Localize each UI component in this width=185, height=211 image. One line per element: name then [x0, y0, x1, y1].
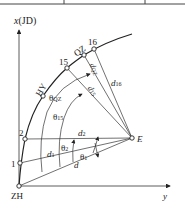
line-d16	[94, 49, 132, 138]
label-point-1: 1	[11, 159, 16, 169]
label-point-e: E	[136, 134, 143, 144]
label-d15: d15	[86, 85, 99, 98]
line-d15	[67, 68, 132, 138]
line-d2	[25, 138, 132, 139]
label-d1: d1	[47, 149, 55, 159]
axes	[19, 30, 170, 186]
label-d16: d16	[111, 78, 122, 88]
y-axis-label: y	[162, 191, 167, 201]
label-dqz: dQZ	[88, 62, 100, 77]
point-1	[18, 161, 22, 165]
curve-layout-diagram: x(JD) ZH y 1 2 HY 15 QZ 16 E d d1 d2 d15…	[0, 0, 185, 211]
point-16	[92, 47, 96, 51]
label-point-15: 15	[59, 57, 69, 67]
label-thetaqz: θQZ	[49, 93, 62, 103]
label-d2: d2	[78, 128, 86, 138]
label-theta2: θ2	[61, 143, 68, 153]
table-border-remnant	[0, 0, 185, 4]
label-theta15: θ15	[53, 112, 63, 122]
point-e	[130, 136, 134, 140]
label-point-16: 16	[88, 37, 98, 47]
x-axis-label: x(JD)	[13, 15, 36, 27]
arc-theta1-tick	[95, 143, 98, 157]
origin-label: ZH	[11, 191, 23, 201]
label-point-hy: HY	[34, 81, 49, 98]
label-d: d	[74, 160, 79, 170]
point-zh	[17, 184, 21, 188]
label-point-2: 2	[19, 128, 24, 138]
label-theta1: θ1	[80, 152, 87, 162]
